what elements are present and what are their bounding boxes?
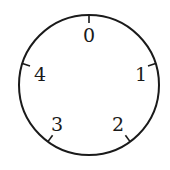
- tick-1: [148, 63, 156, 66]
- label-0: 0: [83, 24, 95, 46]
- label-1: 1: [135, 63, 147, 85]
- label-4: 4: [34, 63, 46, 85]
- tick-2: [125, 135, 130, 141]
- label-2: 2: [112, 113, 124, 135]
- label-3: 3: [51, 113, 63, 135]
- dial-diagram: 0 1 2 3 4: [0, 0, 170, 170]
- dial-labels: 0 1 2 3 4: [34, 24, 147, 135]
- tick-3: [48, 135, 53, 141]
- tick-4: [22, 63, 30, 66]
- dial-svg: 0 1 2 3 4: [0, 0, 170, 170]
